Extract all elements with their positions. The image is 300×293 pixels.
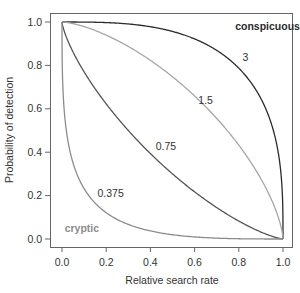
x-tick-label: 0.4 <box>143 256 158 268</box>
y-axis: 0.00.20.40.60.81.0 <box>27 16 50 245</box>
curve-label-1-5: 1.5 <box>198 94 213 106</box>
curves <box>62 22 283 239</box>
curve-0-375 <box>62 22 283 239</box>
curve-label-0-375: 0.375 <box>97 187 123 199</box>
y-tick-label: 0.2 <box>27 189 42 201</box>
x-tick-label: 0.2 <box>99 256 114 268</box>
y-tick-label: 0.4 <box>27 146 42 158</box>
y-tick-label: 0.0 <box>27 233 42 245</box>
cryptic-label: cryptic <box>65 222 100 234</box>
x-axis-title: Relative search rate <box>125 274 219 286</box>
x-tick-label: 1.0 <box>276 256 291 268</box>
y-tick-label: 0.8 <box>27 59 42 71</box>
x-tick-label: 0.6 <box>187 256 202 268</box>
y-tick-label: 0.6 <box>27 102 42 114</box>
curve-label-3: 3 <box>243 51 249 63</box>
detection-probability-chart: 0.00.20.40.60.81.0 0.00.20.40.60.81.0 co… <box>0 0 300 293</box>
curve-0-75 <box>62 22 283 239</box>
curve-3 <box>62 22 283 239</box>
conspicuous-label: conspicuous <box>235 20 300 32</box>
curve-labels: conspicuouscryptic31.50.750.375 <box>65 20 300 234</box>
curve-1-5 <box>62 22 283 239</box>
x-tick-label: 0.0 <box>55 256 70 268</box>
x-tick-label: 0.8 <box>231 256 246 268</box>
curve-label-0-75: 0.75 <box>156 140 177 152</box>
x-axis: 0.00.20.40.60.81.0 <box>55 247 291 268</box>
y-axis-title: Probability of detection <box>3 77 15 183</box>
y-tick-label: 1.0 <box>27 16 42 28</box>
plot-frame <box>51 14 293 248</box>
